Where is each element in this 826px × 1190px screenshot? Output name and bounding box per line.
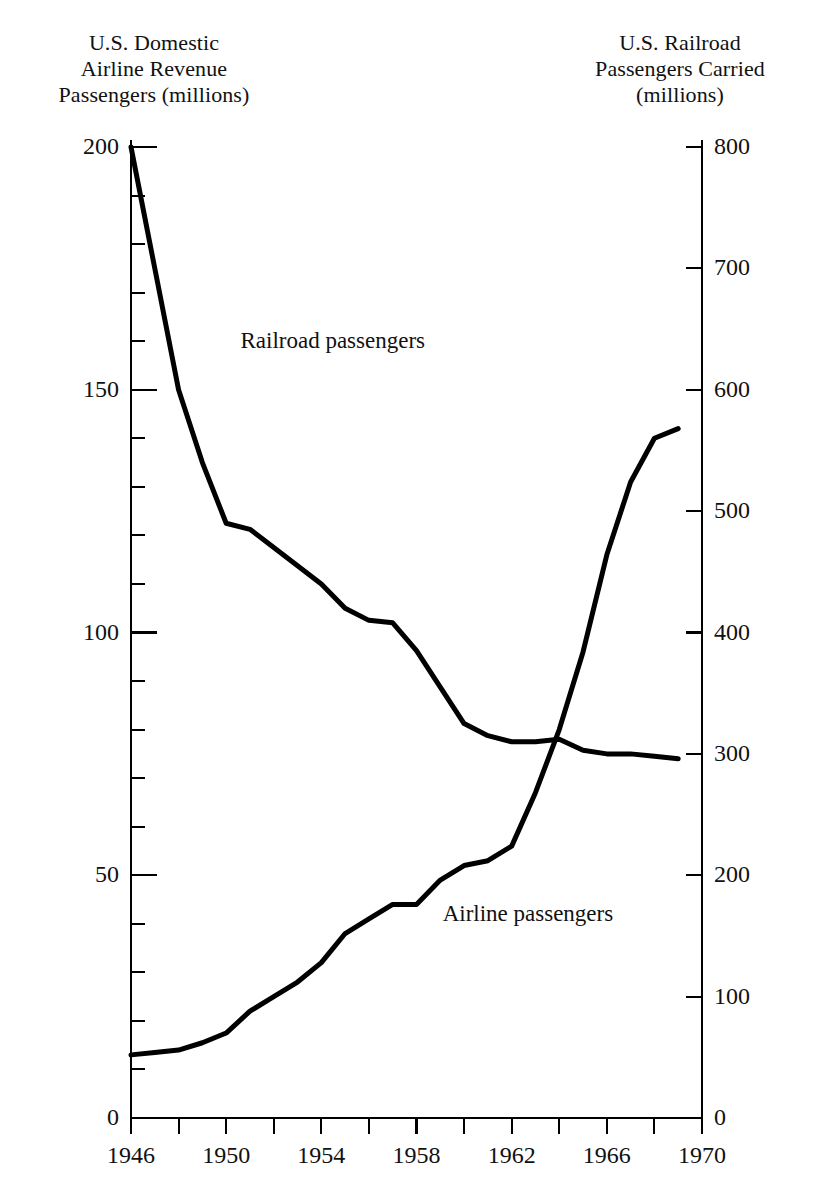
x-tick-label: 1946: [76, 1143, 186, 1167]
chart-plot-area: [0, 0, 826, 1190]
series-line-railroad-passengers: [131, 147, 678, 759]
y2-tick-label: 200: [714, 862, 804, 886]
y2-tick-label: 600: [714, 377, 804, 401]
y-tick-label: 0: [20, 1105, 119, 1129]
y-tick-label: 50: [20, 862, 119, 886]
y-tick-label: 150: [20, 377, 119, 401]
y-tick-label: 200: [20, 134, 119, 158]
y-tick-label: 100: [20, 620, 119, 644]
x-tick-label: 1958: [362, 1143, 472, 1167]
series-annotation: Airline passengers: [443, 902, 614, 925]
x-tick-label: 1966: [552, 1143, 662, 1167]
y2-tick-label: 0: [714, 1105, 804, 1129]
x-tick-label: 1950: [171, 1143, 281, 1167]
y2-tick-label: 700: [714, 255, 804, 279]
x-tick-label: 1962: [457, 1143, 567, 1167]
series-annotation: Railroad passengers: [240, 329, 425, 352]
y2-tick-label: 500: [714, 498, 804, 522]
chart-figure: U.S. Domestic Airline Revenue Passengers…: [0, 0, 826, 1190]
x-tick-label: 1954: [266, 1143, 376, 1167]
y2-tick-label: 100: [714, 984, 804, 1008]
x-tick-label: 1970: [647, 1143, 757, 1167]
y2-tick-label: 800: [714, 134, 804, 158]
series-line-airline-passengers: [131, 429, 678, 1055]
y2-tick-label: 400: [714, 620, 804, 644]
chart-axes: [131, 140, 702, 1134]
y2-tick-label: 300: [714, 741, 804, 765]
